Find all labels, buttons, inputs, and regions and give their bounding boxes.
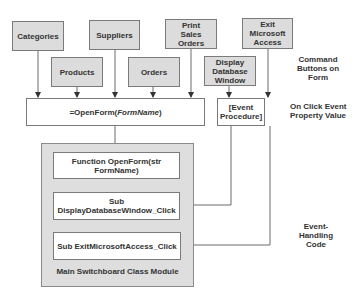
categories-label: Categories <box>17 32 58 41</box>
display-database-window-label: Display Database Window <box>209 58 251 85</box>
function-openform-label: Function OpenForm(str FormName) <box>54 157 179 175</box>
exit-microsoft-access-label: Exit Microsoft Access <box>249 20 286 47</box>
display-database-window-button: Display Database Window <box>204 56 256 86</box>
openform-property-box: =OpenForm(FormName) <box>26 98 205 126</box>
on-click-annotation: On Click Event Property Value <box>290 102 354 120</box>
products-label: Products <box>60 68 95 77</box>
event-procedure-box: [Event Procedure] <box>217 98 265 126</box>
module-title: Main Switchboard Class Module <box>41 267 194 276</box>
print-sales-orders-label: Print Sales Orders <box>172 21 210 48</box>
openform-suffix: ) <box>159 108 162 117</box>
suppliers-button: Suppliers <box>89 20 140 50</box>
sub-display-label: Sub DisplayDatabaseWindow_Click <box>54 197 179 215</box>
orders-label: Orders <box>141 68 167 77</box>
exit-microsoft-access-button: Exit Microsoft Access <box>242 18 293 49</box>
sub-display-database-window-box: Sub DisplayDatabaseWindow_Click <box>53 192 180 220</box>
sub-exit-label: Sub ExitMicrosoftAccess_Click <box>57 242 177 251</box>
sub-exit-microsoft-access-box: Sub ExitMicrosoftAccess_Click <box>53 232 181 260</box>
orders-button: Orders <box>128 57 180 87</box>
products-button: Products <box>51 57 103 87</box>
openform-prefix: =OpenForm( <box>69 108 117 117</box>
command-buttons-annotation: Command Buttons on Form <box>290 55 346 82</box>
suppliers-label: Suppliers <box>96 31 132 40</box>
categories-button: Categories <box>12 21 64 51</box>
event-handling-annotation: Event-Handling Code <box>288 222 344 249</box>
event-procedure-label: [Event Procedure] <box>220 103 262 121</box>
openform-arg: FormName <box>117 108 159 117</box>
function-openform-box: Function OpenForm(str FormName) <box>53 152 180 179</box>
print-sales-orders-button: Print Sales Orders <box>165 19 217 49</box>
